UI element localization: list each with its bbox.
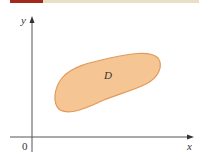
y-axis-arrow-icon bbox=[30, 16, 35, 23]
y-axis-label: y bbox=[20, 14, 26, 26]
region-d-shape bbox=[55, 53, 160, 111]
region-label: D bbox=[103, 69, 112, 81]
origin-label: 0 bbox=[22, 140, 28, 152]
region-diagram: y x 0 D bbox=[0, 0, 199, 155]
x-axis-label: x bbox=[186, 140, 192, 152]
x-axis-arrow-icon bbox=[187, 135, 194, 140]
